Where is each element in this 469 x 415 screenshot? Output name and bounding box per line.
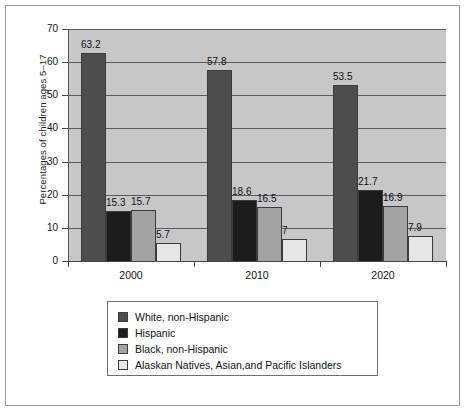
bar <box>207 70 232 262</box>
bar-value-label: 15.3 <box>106 198 125 208</box>
legend-label: Alaskan Natives, Asian,and Pacific Islan… <box>135 359 342 371</box>
legend-item: Hispanic <box>118 325 175 341</box>
bar <box>106 211 131 262</box>
bar-value-label: 5.7 <box>156 230 170 240</box>
bar <box>81 53 106 262</box>
y-axis-tick-label: 30 <box>12 157 58 167</box>
x-axis-tick <box>194 262 195 267</box>
plot-area <box>68 29 446 261</box>
bar-value-label: 53.5 <box>333 72 352 82</box>
x-axis-tick <box>320 262 321 267</box>
y-axis-tick-label-wrap: 70 <box>6 24 58 34</box>
y-axis-tick-label: 70 <box>12 24 58 34</box>
legend-swatch <box>118 312 128 322</box>
y-axis-tick-label-wrap: 0 <box>6 256 58 266</box>
legend-label: Black, non-Hispanic <box>135 343 228 355</box>
y-axis-tick-label: 40 <box>12 123 58 133</box>
y-axis-tick-label-wrap: 10 <box>6 223 58 233</box>
legend-swatch <box>118 328 128 338</box>
legend-swatch <box>118 360 128 370</box>
bar-value-label: 16.5 <box>257 194 276 204</box>
gridline <box>69 29 446 30</box>
x-axis-label: 2010 <box>222 269 292 281</box>
x-axis-tick <box>68 262 69 267</box>
y-axis-tick-label-wrap: 40 <box>6 123 58 133</box>
bar <box>257 207 282 262</box>
legend-item: Black, non-Hispanic <box>118 341 228 357</box>
bar-value-label: 18.6 <box>232 187 251 197</box>
bar-chart: Percentages of children ages 5–17 010203… <box>6 6 461 296</box>
legend-item: White, non-Hispanic <box>118 309 229 325</box>
bar-value-label: 7.9 <box>408 223 422 233</box>
y-axis-tick-label: 10 <box>12 223 58 233</box>
bar-value-label: 21.7 <box>358 177 377 187</box>
bar <box>232 200 257 262</box>
x-axis-label: 2020 <box>348 269 418 281</box>
legend-swatch <box>118 344 128 354</box>
legend-item: Alaskan Natives, Asian,and Pacific Islan… <box>118 357 342 373</box>
bar <box>408 236 433 262</box>
y-axis-tick-label-wrap: 30 <box>6 157 58 167</box>
legend-label: Hispanic <box>135 327 175 339</box>
bar-value-label: 63.2 <box>81 40 100 50</box>
gridline <box>69 95 446 96</box>
y-axis-tick-label-wrap: 20 <box>6 190 58 200</box>
y-axis-tick-label: 20 <box>12 190 58 200</box>
bar <box>333 85 358 262</box>
bar <box>131 210 156 262</box>
x-axis-line <box>68 261 447 262</box>
bar-value-label: 57.8 <box>207 57 226 67</box>
y-axis-tick-label-wrap: 60 <box>6 57 58 67</box>
bar-value-label: 16.9 <box>383 193 402 203</box>
y-axis-tick-label: 0 <box>12 256 58 266</box>
bar-value-label: 15.7 <box>131 197 150 207</box>
bar <box>358 190 383 262</box>
chart-legend: White, non-HispanicHispanicBlack, non-Hi… <box>107 301 378 376</box>
x-axis-tick <box>446 262 447 267</box>
bar <box>282 239 307 262</box>
figure-frame: Percentages of children ages 5–17 010203… <box>5 5 460 406</box>
legend-label: White, non-Hispanic <box>135 311 229 323</box>
bar-value-label: 7 <box>282 226 288 236</box>
gridline <box>69 62 446 63</box>
y-axis-tick-label: 60 <box>12 57 58 67</box>
gridline <box>69 162 446 163</box>
bar <box>156 243 181 262</box>
y-axis-tick-label-wrap: 50 <box>6 90 58 100</box>
gridline <box>69 128 446 129</box>
x-axis-label: 2000 <box>96 269 166 281</box>
y-axis-tick-label: 50 <box>12 90 58 100</box>
bar <box>383 206 408 262</box>
